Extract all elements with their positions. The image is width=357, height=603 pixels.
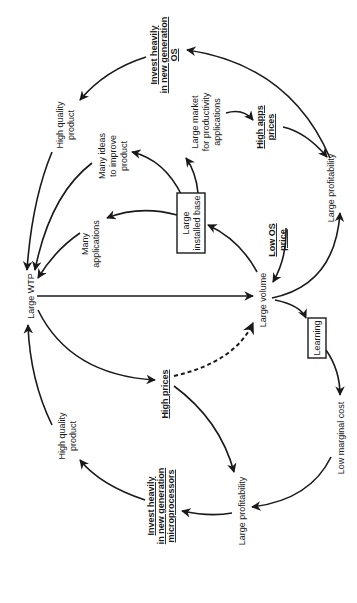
node-learning: Learning (312, 320, 322, 355)
node-label-line: Large WTP (26, 273, 36, 319)
node-low-os-price: Low OS price (267, 223, 288, 257)
edge-volume-to-installed-base (208, 225, 257, 272)
node-label-line: Large (181, 211, 191, 234)
node-label-line: in new generation (159, 17, 169, 94)
node-many-apps: Many applications (80, 220, 101, 268)
node-label-line: Invest heavily (149, 25, 159, 84)
node-label-line: High quality (55, 101, 65, 149)
node-label-line: applications (91, 220, 101, 268)
node-label-line: prices (266, 114, 276, 141)
node-label-line: product (66, 109, 76, 140)
node-label-line: Invest heavily (146, 476, 156, 535)
node-label-line: High prices (160, 369, 170, 418)
edge-profitability-to-invest-micro (182, 511, 232, 515)
node-large-profitability-bottom: Large profitability (237, 476, 247, 545)
node-label-line: price (278, 229, 288, 251)
node-label-line: to improve (108, 135, 118, 177)
edge-apps-prices-to-profitability (283, 127, 327, 157)
edge-high-prices-to-volume-dashed (174, 323, 253, 376)
node-label-line: High apps (255, 105, 265, 149)
edge-wtp-to-high-prices (38, 310, 155, 380)
edge-installed-base-to-many-apps (107, 211, 177, 218)
edge-marginal-cost-to-profitability (252, 457, 331, 507)
node-label-line: Many ideas (97, 132, 107, 179)
node-hq-product-top: High quality product (55, 101, 76, 149)
node-label-line: Low marginal cost (336, 401, 346, 474)
node-label-line: Large profitability (237, 476, 247, 545)
node-label-line: product (68, 420, 78, 451)
edge-high-prices-to-profitability (174, 386, 234, 472)
edge-hq-product-bottom-to-wtp (28, 325, 52, 425)
node-large-wtp: Large WTP (26, 273, 36, 319)
node-label-line: in new generation (156, 468, 166, 545)
node-label-line: microprocessors (166, 469, 176, 542)
node-many-ideas: Many ideas to improve product (97, 132, 129, 179)
node-large-volume: Large volume (258, 273, 268, 328)
edge-invest-os-to-hq-product (80, 57, 146, 100)
edge-installed-base-to-many-ideas (132, 152, 182, 196)
node-large-profitability-top: Large profitability (326, 153, 336, 222)
causal-loop-diagram: Invest heavily in new generation OS High… (0, 0, 357, 603)
edge-volume-to-learning (275, 300, 306, 318)
node-label-line: Large market (190, 95, 200, 149)
edge-invest-micro-to-hq-product (80, 460, 145, 500)
node-label-line: product (119, 140, 129, 171)
node-low-marginal-cost: Low marginal cost (336, 401, 346, 474)
node-label-line: OS (169, 48, 179, 61)
node-label-line: applications (212, 98, 222, 146)
node-label-line: for productivity (201, 92, 211, 151)
node-label-line: High quality (57, 412, 67, 460)
node-label-line: installed base (192, 195, 202, 250)
edge-large-market-to-apps-prices (226, 112, 253, 120)
node-label-line: Large volume (258, 273, 268, 328)
node-high-apps-prices: High apps prices (255, 105, 276, 149)
node-label-line: Learning (312, 320, 322, 355)
node-hq-product-bottom: High quality product (57, 412, 78, 460)
edge-installed-base-to-large-market (186, 158, 198, 193)
edge-volume-to-profitability (272, 213, 340, 298)
node-label-line: Many (80, 233, 90, 256)
edge-learning-to-marginal-cost (326, 350, 340, 395)
node-invest-os: Invest heavily in new generation OS (149, 17, 179, 94)
node-invest-micro: Invest heavily in new generation micropr… (146, 468, 176, 545)
edge-many-apps-to-wtp (38, 233, 80, 278)
node-large-market: Large market for productivity applicatio… (190, 92, 222, 151)
node-label-line: Low OS (267, 223, 277, 257)
node-high-prices: High prices (160, 369, 170, 418)
node-label-line: Large profitability (326, 153, 336, 222)
